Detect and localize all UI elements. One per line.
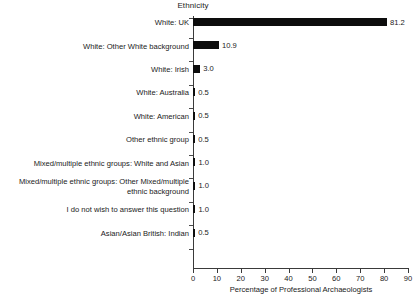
category-label: White: Australia [3,88,189,97]
bar-value-label: 0.5 [198,228,209,237]
bar[interactable] [193,182,195,190]
x-axis-tick-label: 80 [372,274,396,283]
bar[interactable] [193,229,195,237]
x-axis-tick [241,269,242,273]
bar-value-label: 81.2 [390,18,405,27]
chart-row: Asian/Asian British: Indian0.5 [0,229,417,252]
x-axis-tick-label: 30 [253,274,277,283]
y-axis-tick [189,178,193,179]
x-axis-tick-label: 50 [300,274,324,283]
bar-value-label: 0.5 [198,111,209,120]
chart-row: Other ethnic group0.5 [0,135,417,158]
y-axis-tick [189,202,193,203]
y-axis-tick [189,61,193,62]
x-axis-tick-label: 40 [277,274,301,283]
x-axis-tick-label: 20 [229,274,253,283]
bar[interactable] [193,158,195,166]
x-axis-title: Percentage of Professional Archaeologist… [193,285,409,294]
x-axis-tick-label: 10 [205,274,229,283]
category-label: Mixed/multiple ethnic groups: Other Mixe… [3,177,189,196]
bar-value-label: 1.0 [198,205,209,214]
x-axis-tick-label: 0 [181,274,205,283]
x-axis-tick [289,269,290,273]
category-label: Mixed/multiple ethnic groups: White and … [3,159,189,168]
x-axis-tick [360,269,361,273]
x-axis-tick [217,269,218,273]
chart-row: I do not wish to answer this question1.0 [0,205,417,228]
category-label: White: American [3,112,189,121]
chart-row: White: American0.5 [0,112,417,135]
category-label: Asian/Asian British: Indian [3,229,189,238]
ethnicity-bar-chart: Ethnicity White: UK81.2White: Other Whit… [0,0,417,296]
bar[interactable] [193,88,195,96]
bar[interactable] [193,112,195,120]
x-axis-tick [265,269,266,273]
bar[interactable] [193,205,195,213]
bar[interactable] [193,18,387,26]
y-axis-tick [189,108,193,109]
x-axis-tick-label: 90 [396,274,417,283]
bar-value-label: 3.0 [203,64,214,73]
bar[interactable] [193,41,219,49]
x-axis-tick [384,269,385,273]
category-label: Other ethnic group [3,135,189,144]
y-axis-tick [189,225,193,226]
category-label: I do not wish to answer this question [3,205,189,214]
x-axis-tick [336,269,337,273]
y-axis-tick [189,155,193,156]
y-axis-tick [189,18,193,19]
x-axis-tick [408,269,409,273]
chart-row: White: Irish3.0 [0,65,417,88]
bar-value-label: 1.0 [198,181,209,190]
bar-value-label: 1.0 [198,158,209,167]
x-axis-tick-label: 70 [348,274,372,283]
x-axis-line [193,268,409,269]
bar-value-label: 10.9 [222,41,237,50]
bar-value-label: 0.5 [198,88,209,97]
bar[interactable] [193,65,200,73]
y-axis-tick [189,249,193,250]
x-axis-tick [312,269,313,273]
chart-row: Mixed/multiple ethnic groups: Other Mixe… [0,182,417,205]
chart-row: White: Other White background10.9 [0,41,417,64]
category-label: White: UK [3,18,189,27]
chart-row: White: Australia0.5 [0,88,417,111]
y-axis-tick [189,85,193,86]
y-axis-tick [189,132,193,133]
chart-row: White: UK81.2 [0,18,417,41]
x-axis-tick [193,269,194,273]
category-label: White: Other White background [3,42,189,51]
bar[interactable] [193,135,195,143]
x-axis-tick-label: 60 [324,274,348,283]
bar-value-label: 0.5 [198,135,209,144]
category-label: White: Irish [3,65,189,74]
y-axis-tick [189,38,193,39]
chart-title: Ethnicity [0,1,386,11]
